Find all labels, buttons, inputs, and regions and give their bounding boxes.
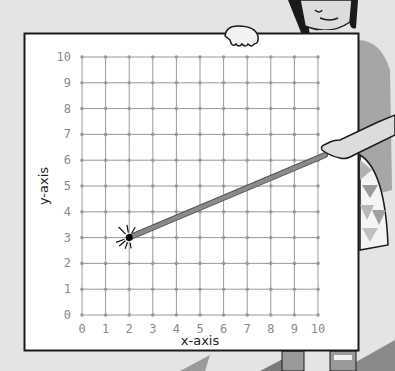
x-tick-label: 7: [244, 322, 251, 336]
x-tick-label: 8: [267, 322, 274, 336]
y-tick-label: 5: [64, 179, 71, 193]
x-tick-label: 3: [149, 322, 156, 336]
y-tick-label: 4: [64, 205, 71, 219]
x-tick-label: 10: [311, 322, 325, 336]
x-tick-label: 9: [291, 322, 298, 336]
x-tick-label: 1: [102, 322, 109, 336]
y-axis-label: y-axis: [36, 167, 51, 205]
x-tick-label: 6: [220, 322, 227, 336]
x-tick-label: 2: [126, 322, 133, 336]
y-tick-label: 2: [64, 256, 71, 270]
y-tick-label: 3: [64, 231, 71, 245]
y-tick-label: 1: [64, 282, 71, 296]
x-tick-label: 0: [78, 322, 85, 336]
y-tick-label: 8: [64, 102, 71, 116]
data-point: [126, 234, 133, 241]
y-tick-label: 0: [64, 308, 71, 322]
graph-board: [25, 34, 359, 351]
y-tick-label: 9: [64, 76, 71, 90]
y-tick-label: 10: [57, 50, 71, 64]
y-tick-label: 6: [64, 153, 71, 167]
x-axis-label: x-axis: [181, 333, 220, 348]
chart-scene: 012345678910 012345678910 x-axis y-axis: [0, 0, 395, 371]
y-tick-label: 7: [64, 127, 71, 141]
x-tick-label: 4: [173, 322, 180, 336]
